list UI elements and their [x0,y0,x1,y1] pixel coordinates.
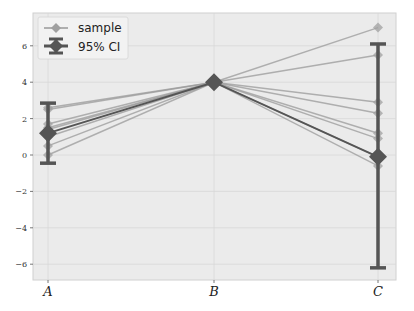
legend-ci-label: 95% CI [78,40,120,54]
chart: −6−4−20246 ABC sample 95% CI [0,0,414,311]
y-tick-label: 4 [22,78,27,87]
y-tick-label: −2 [15,187,27,196]
x-tick-label: B [208,284,219,299]
y-axis: −6−4−20246 [15,42,33,269]
x-tick-label: A [42,284,52,299]
y-tick-label: 0 [22,151,27,160]
y-tick-label: 2 [22,115,27,124]
legend-sample-label: sample [78,21,122,35]
y-tick-label: −4 [15,224,27,233]
legend: sample 95% CI [38,17,128,59]
y-tick-label: −6 [15,260,27,269]
x-axis: ABC [42,280,383,299]
x-tick-label: C [373,284,383,299]
y-tick-label: 6 [22,42,27,51]
